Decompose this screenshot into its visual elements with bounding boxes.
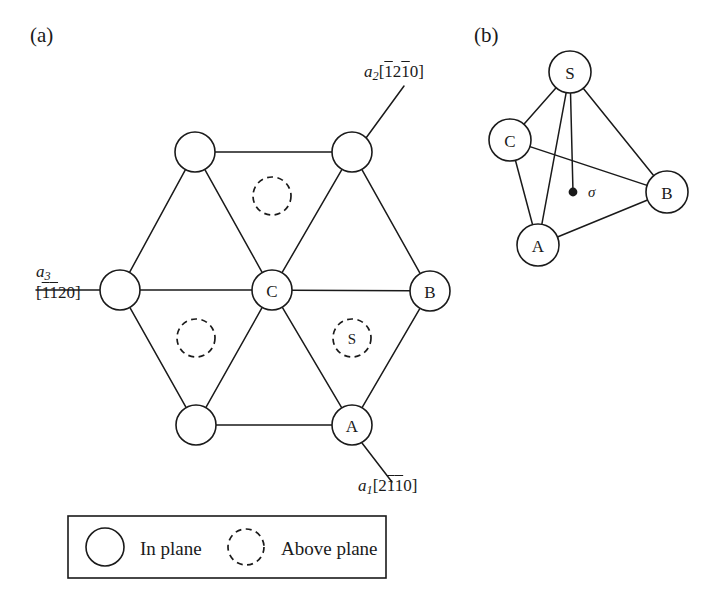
- tetra-node-label: C: [504, 132, 515, 151]
- tetra-node-label: B: [661, 184, 672, 203]
- in-plane-atom-right-b: B: [410, 271, 450, 311]
- tetra-node-label: S: [565, 64, 574, 83]
- atom-label: A: [346, 417, 359, 436]
- tetra-node-label: A: [532, 237, 545, 256]
- in-plane-atom-bottom-right-a: A: [332, 405, 372, 445]
- bond-left-bottom-left: [130, 307, 186, 407]
- bond-bottom-right-a-right-b: [362, 308, 420, 407]
- tetrahedron-nodes-group: SCBA: [489, 51, 688, 266]
- panel-a-label: (a): [30, 23, 53, 47]
- in-plane-atom-left: [100, 270, 140, 310]
- axis-label-a3: a3[1120]: [36, 262, 81, 303]
- above-plane-atom-upper-void: [253, 177, 291, 215]
- tetra-node-S: S: [549, 51, 591, 93]
- axis-label-a1: a1[2110]: [358, 476, 417, 497]
- bond-top-left-center-c: [205, 169, 263, 272]
- legend: In planeAbove plane: [68, 516, 386, 578]
- atom-label: B: [424, 283, 435, 302]
- above-plane-atom-s-site: S: [333, 319, 371, 357]
- sigma-dot: [569, 188, 578, 197]
- tetra-edge-S-A: [542, 93, 566, 225]
- atom-label: S: [348, 331, 356, 347]
- sigma-label: σ: [588, 184, 596, 200]
- bond-center-c-bottom-right-a: [282, 307, 342, 408]
- tetra-edge-C-B: [530, 147, 647, 186]
- tetra-edge-S-C: [524, 88, 556, 125]
- tetra-edge-S-B: [583, 88, 654, 175]
- legend-label: Above plane: [281, 538, 378, 559]
- atom-label: C: [266, 282, 277, 301]
- in-plane-atom-top-right: [332, 132, 372, 172]
- tetra-edge-C-A: [515, 160, 532, 224]
- legend-entry-in-plane: In plane: [86, 528, 202, 566]
- tetra-node-C: C: [489, 119, 531, 161]
- legend-solid-circle-icon: [86, 528, 124, 566]
- tetrahedron-edges-group: [515, 88, 653, 237]
- in-plane-atom-top-left: [175, 132, 215, 172]
- tetra-node-B: B: [646, 171, 688, 213]
- legend-entry-above-plane: Above plane: [228, 529, 378, 565]
- in-plane-atoms-group: CBA: [100, 132, 450, 445]
- bond-center-c-right-b: [292, 290, 410, 291]
- legend-dashed-circle-icon: [228, 529, 264, 565]
- tetra-node-A: A: [517, 224, 559, 266]
- panel-b-label: (b): [474, 23, 499, 47]
- in-plane-atom-bottom-left: [176, 405, 216, 445]
- figure-root: (a) (b) S CBA σ SCBA In planeAbove plane…: [0, 0, 706, 605]
- axis-line-a2: [366, 86, 404, 138]
- legend-label: In plane: [140, 538, 202, 559]
- bond-top-left-left: [130, 170, 186, 273]
- above-plane-atom-left-void: [177, 319, 215, 357]
- tetra-edge-A-B: [557, 200, 647, 237]
- axis-label-a2: a2[1210]: [364, 62, 424, 83]
- sigma-marker-group: σ: [569, 93, 596, 200]
- bond-top-right-center-c: [282, 169, 342, 272]
- above-plane-atoms-group: S: [177, 177, 371, 357]
- bond-top-right-right-b: [362, 169, 420, 273]
- figure-canvas: (a) (b) S CBA σ SCBA In planeAbove plane: [0, 0, 706, 605]
- in-plane-atom-center-c: C: [252, 270, 292, 310]
- sigma-stem: [571, 93, 573, 192]
- bond-center-c-bottom-left: [206, 307, 262, 407]
